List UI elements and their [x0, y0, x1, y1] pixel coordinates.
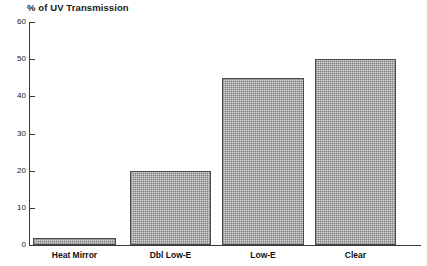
y-axis-tick	[29, 96, 35, 97]
y-axis-tick	[29, 208, 35, 209]
y-axis-tick-label-text: 30	[2, 130, 26, 138]
y-axis-tick-label-text: 50	[2, 55, 26, 63]
y-axis-tick	[29, 134, 35, 135]
y-axis-tick-label: 20	[0, 167, 26, 175]
x-axis-line	[29, 245, 421, 246]
y-axis-tick-label: 0	[0, 241, 26, 249]
bar-low-e	[222, 78, 304, 245]
y-axis-tick-label: 40	[0, 92, 26, 100]
category-label: Heat Mirror	[33, 250, 116, 260]
bar-dbl-low-e	[130, 171, 211, 245]
y-axis-tick-label: 60	[0, 18, 26, 26]
bar-clear	[315, 59, 396, 245]
y-axis-tick	[29, 171, 35, 172]
y-axis-tick-label: 10	[0, 204, 26, 212]
y-axis-tick-label-text: 20	[2, 167, 26, 175]
y-axis-tick-label: 30	[0, 130, 26, 138]
y-axis-tick-label-text: 10	[2, 204, 26, 212]
category-label: Clear	[315, 250, 396, 260]
category-label: Low-E	[222, 250, 304, 260]
y-axis-tick	[29, 22, 35, 23]
y-axis-tick-label-text: 0	[2, 241, 26, 249]
bar-heat-mirror	[33, 238, 116, 245]
y-axis-tick-label-text: 60	[2, 18, 26, 26]
bar-chart: % of UV Transmission 0102030405060 Heat …	[0, 0, 427, 266]
category-label: Dbl Low-E	[130, 250, 211, 260]
y-axis-tick	[29, 59, 35, 60]
y-axis-tick	[29, 245, 35, 246]
y-axis-tick-label-text: 40	[2, 92, 26, 100]
chart-title: % of UV Transmission	[27, 2, 129, 13]
y-axis-tick-label: 50	[0, 55, 26, 63]
